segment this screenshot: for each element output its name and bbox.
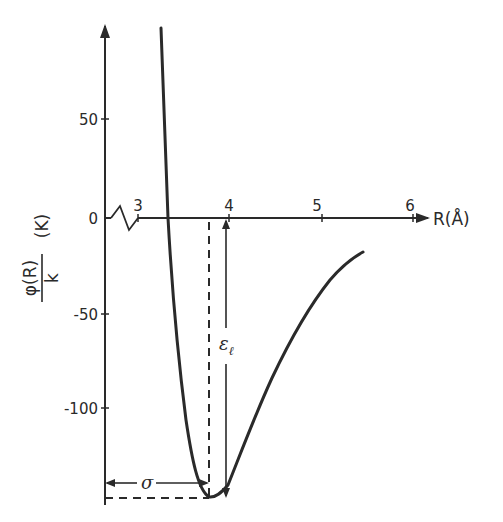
x-axis-title: R(Å) bbox=[433, 208, 470, 229]
x-tick-label: 3 bbox=[133, 197, 143, 215]
epsilon-label: εℓ bbox=[219, 333, 234, 358]
y-tick-label: -50 bbox=[74, 306, 99, 324]
x-axis bbox=[105, 206, 428, 230]
y-axis-unit: (K) bbox=[32, 214, 52, 238]
y-axis-title: φ(R) k (K) bbox=[20, 214, 62, 302]
sigma-label: σ bbox=[141, 472, 154, 493]
y-tick-label: 50 bbox=[79, 111, 98, 129]
x-tick-label: 4 bbox=[224, 197, 234, 215]
y-axis-denominator: k bbox=[42, 273, 62, 283]
x-tick-label: 5 bbox=[312, 197, 322, 215]
y-tick-label: 0 bbox=[88, 210, 98, 228]
x-tick-label: 6 bbox=[405, 197, 415, 215]
potential-energy-chart: 50 0 -50 -100 3 4 5 6 R(Å) φ(R) k (K) εℓ… bbox=[0, 0, 503, 522]
y-tick-label: -100 bbox=[64, 400, 98, 418]
potential-curve bbox=[161, 28, 363, 497]
y-axis-numerator: φ(R) bbox=[20, 260, 40, 296]
